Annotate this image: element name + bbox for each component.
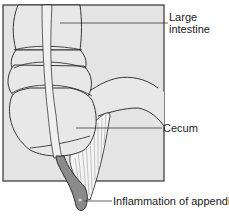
label-cecum: Cecum	[163, 122, 198, 134]
label-intestine: intestine	[169, 23, 210, 35]
label-large: Large	[169, 11, 210, 23]
label-appendix: Inflammation of appendix	[113, 195, 229, 207]
label-large-intestine: Large intestine	[169, 11, 210, 35]
